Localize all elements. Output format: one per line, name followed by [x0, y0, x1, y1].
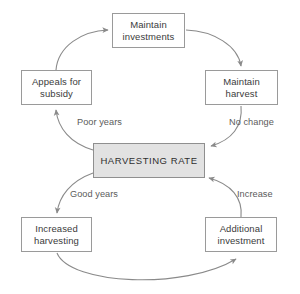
node-maintain-investments[interactable]: Maintain investments [112, 13, 185, 48]
node-label: HARVESTING RATE [98, 155, 199, 167]
edge-label-good-years: Good years [70, 189, 118, 199]
node-label: Additional investment [216, 223, 267, 246]
node-label: Maintain harvest [221, 76, 262, 99]
node-label: Increased harvesting [32, 223, 81, 246]
edge-label-no-change: No change [229, 117, 274, 127]
edge-label-increase: Increase [237, 189, 273, 199]
node-increased-harvesting[interactable]: Increased harvesting [21, 217, 92, 252]
node-additional-investment[interactable]: Additional investment [205, 217, 277, 252]
node-label: Appeals for subsidy [30, 76, 83, 99]
edge-rate-to-appeals [56, 110, 93, 150]
edge-harvesting-to-investment [57, 253, 236, 280]
edge-label-poor-years: Poor years [77, 117, 122, 127]
node-appeals-for-subsidy[interactable]: Appeals for subsidy [21, 70, 92, 105]
node-maintain-harvest[interactable]: Maintain harvest [205, 70, 278, 105]
edge-appeals-to-investments [56, 30, 108, 70]
node-harvesting-rate[interactable]: HARVESTING RATE [93, 143, 205, 178]
diagram-canvas: Maintain investments Appeals for subsidy… [0, 0, 300, 294]
node-label: Maintain investments [121, 19, 177, 42]
edge-investments-to-harvest [186, 30, 241, 66]
